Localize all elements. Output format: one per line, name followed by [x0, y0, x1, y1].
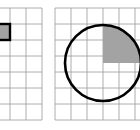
highlighted-unit-cell: [0, 24, 10, 40]
figure-canvas: Two square grids: left grid with one hig…: [0, 0, 140, 130]
figure-root: Two square grids: left grid with one hig…: [0, 0, 140, 130]
